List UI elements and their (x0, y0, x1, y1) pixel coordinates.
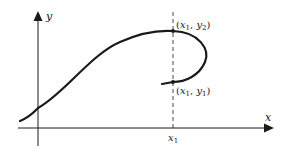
point-upper-label: (x1, y2) (176, 19, 211, 32)
y-axis-label: y (45, 10, 53, 23)
x-axis-label: x (265, 111, 272, 124)
x-axis-arrow-icon (264, 124, 274, 133)
point-lower-marker (171, 80, 175, 84)
x1-tick-label: x1 (168, 132, 178, 145)
point-upper-marker (171, 29, 175, 33)
function-curve (20, 31, 206, 121)
function-diagram: y x x1 (x1, y2) (x1, y1) (0, 0, 285, 150)
point-lower-label: (x1, y1) (176, 85, 211, 98)
y-axis-arrow-icon (34, 11, 43, 21)
